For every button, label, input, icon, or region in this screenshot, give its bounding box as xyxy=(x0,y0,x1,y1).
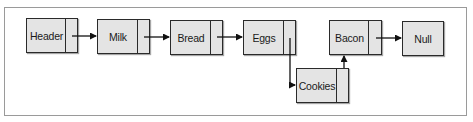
edges-layer xyxy=(0,0,473,122)
arrow-eggs-to-cookies xyxy=(290,38,295,85)
